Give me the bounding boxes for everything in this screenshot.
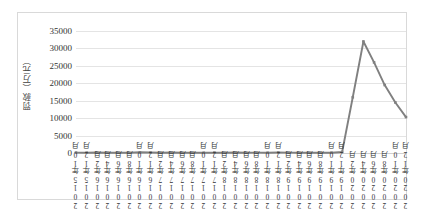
y-axis-tick-label: 5000 (54, 131, 72, 140)
data-point-marker (394, 101, 397, 104)
data-point-marker (373, 61, 376, 64)
x-axis-tick-label: 2016年4月 (104, 154, 111, 210)
x-axis-tick: 2020年6月 (369, 154, 379, 210)
y-axis-tick-label: 15000 (50, 96, 73, 105)
series-markers-group (75, 40, 408, 154)
y-axis-tick-label: 20000 (50, 79, 73, 88)
y-axis-tick-label: 25000 (50, 61, 73, 70)
x-axis-tick-label: 2018年12月 (275, 154, 282, 210)
x-axis-tick-label: 2015年10月 (72, 154, 79, 210)
x-axis-tick: 2020年10月 (390, 154, 400, 210)
x-axis-tick: 2019年4月 (295, 154, 305, 210)
x-axis-tick: 2019年8月 (316, 154, 326, 210)
x-axis-tick: 2018年12月 (273, 154, 283, 210)
x-axis-tick-label: 2017年4月 (168, 154, 175, 210)
x-axis-tick: 2016年12月 (146, 154, 156, 210)
x-axis-tick: 2017年10月 (199, 154, 209, 210)
x-axis-tick: 2017年8月 (188, 154, 198, 210)
x-axis-tick-label: 2017年10月 (200, 154, 207, 210)
x-axis-tick-label: 2020年12月 (402, 154, 409, 210)
x-axis-tick-label: 2017年6月 (179, 154, 186, 210)
x-axis-tick-label: 2020年6月 (370, 154, 377, 210)
x-axis-tick: 2018年10月 (263, 154, 273, 210)
y-axis-tick-label: 10000 (50, 114, 73, 123)
y-axis-tick-label: 35000 (50, 27, 73, 36)
x-axis-tick-label: 2020年8月 (381, 154, 388, 210)
data-point-marker (351, 96, 354, 99)
x-axis-tick: 2020年2月 (348, 154, 358, 210)
x-axis-tick: 2017年2月 (156, 154, 166, 210)
x-axis-tick: 2017年12月 (209, 154, 219, 210)
x-axis-tick: 2019年2月 (284, 154, 294, 210)
x-axis-tick: 2016年10月 (135, 154, 145, 210)
x-axis-tick: 2017年6月 (177, 154, 187, 210)
x-axis-tick: 2020年12月 (401, 154, 411, 210)
x-axis-tick: 2018年8月 (252, 154, 262, 210)
x-axis-tick: 2019年6月 (305, 154, 315, 210)
x-axis-tick-label: 2015年12月 (83, 154, 90, 210)
x-axis-tick: 2017年4月 (167, 154, 177, 210)
x-axis-tick-label: 2019年10月 (328, 154, 335, 210)
x-axis-tick-label: 2020年2月 (349, 154, 356, 210)
x-axis-tick: 2016年4月 (103, 154, 113, 210)
x-axis-tick-label: 2019年2月 (285, 154, 292, 210)
x-axis-tick-label: 2017年2月 (157, 154, 164, 210)
plot-area: 35000300002500020000150001000050000 (76, 31, 406, 153)
x-axis-tick-label: 2016年6月 (115, 154, 122, 210)
y-axis-title: 罚款（万元） (20, 27, 36, 139)
x-axis-tick-label: 2019年12月 (338, 154, 345, 210)
y-axis-title-text: 罚款（万元） (24, 56, 33, 110)
series-line-path (76, 41, 406, 152)
x-axis-tick-label: 2018年4月 (232, 154, 239, 210)
x-axis-tick: 2018年4月 (231, 154, 241, 210)
x-axis-labels: 2015年10月2015年12月2016年2月2016年4月2016年6月201… (76, 154, 406, 212)
data-point-marker (383, 84, 386, 87)
x-axis-tick-label: 2016年12月 (147, 154, 154, 210)
x-axis-tick: 2015年12月 (82, 154, 92, 210)
x-axis-tick-label: 2018年10月 (264, 154, 271, 210)
data-point-marker (362, 40, 365, 43)
x-axis-tick: 2016年8月 (124, 154, 134, 210)
x-axis-tick-label: 2016年8月 (126, 154, 133, 210)
x-axis-tick-label: 2017年8月 (189, 154, 196, 210)
x-axis-tick-label: 2019年6月 (306, 154, 313, 210)
x-axis-tick: 2016年6月 (114, 154, 124, 210)
x-axis-tick: 2019年12月 (337, 154, 347, 210)
y-axis-tick-label: 30000 (50, 44, 73, 53)
x-axis-tick-label: 2016年10月 (136, 154, 143, 210)
x-axis-tick-label: 2016年2月 (94, 154, 101, 210)
x-axis-tick-label: 2018年8月 (253, 154, 260, 210)
x-axis-tick-label: 2018年2月 (221, 154, 228, 210)
x-axis-tick: 2018年2月 (220, 154, 230, 210)
chart-container: 罚款（万元） 350003000025000200001500010000500… (17, 12, 407, 200)
x-axis-tick-label: 2019年8月 (317, 154, 324, 210)
x-axis-tick-label: 2017年12月 (211, 154, 218, 210)
x-axis-tick: 2018年6月 (241, 154, 251, 210)
x-axis-tick: 2019年10月 (326, 154, 336, 210)
x-axis-tick: 2020年8月 (380, 154, 390, 210)
x-axis-tick-label: 2019年4月 (296, 154, 303, 210)
x-axis-tick-label: 2020年10月 (392, 154, 399, 210)
x-axis-tick-label: 2020年4月 (360, 154, 367, 210)
x-axis-tick-label: 2018年6月 (243, 154, 250, 210)
x-axis-tick: 2015年10月 (71, 154, 81, 210)
data-point-marker (405, 116, 408, 119)
line-series (76, 31, 406, 153)
x-axis-tick: 2020年4月 (358, 154, 368, 210)
x-axis-tick: 2016年2月 (92, 154, 102, 210)
